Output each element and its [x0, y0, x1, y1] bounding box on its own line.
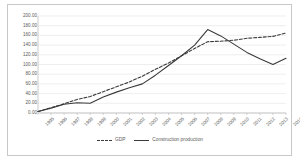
legend-swatch-solid-icon — [134, 140, 149, 141]
legend-item-gdp: GDP — [97, 138, 125, 143]
x-axis-tick-label: 2002 — [136, 117, 146, 127]
x-axis-labels: 1995199619971998199920002001200220032004… — [0, 0, 300, 161]
x-axis-tick-label: 2011 — [253, 117, 263, 127]
chart-legend: GDP Construction production — [0, 138, 300, 143]
x-axis-tick-label: 2014 — [292, 117, 300, 127]
x-axis-tick-label: 2010 — [240, 117, 250, 127]
legend-item-construction-production: Construction production — [134, 138, 203, 143]
x-axis-tick-label: 2012 — [266, 117, 276, 127]
legend-label-construction-production: Construction production — [152, 138, 203, 143]
x-axis-tick-label: 2001 — [123, 117, 133, 127]
x-axis-tick-label: 2008 — [214, 117, 224, 127]
x-axis-tick-label: 2000 — [110, 117, 120, 127]
x-axis-tick-label: 2004 — [162, 117, 172, 127]
x-axis-tick-label: 2013 — [279, 117, 289, 127]
x-axis-tick-label: 2006 — [188, 117, 198, 127]
x-axis-tick-label: 1997 — [71, 117, 81, 127]
x-axis-tick-label: 2009 — [227, 117, 237, 127]
x-axis-tick-label: 1999 — [97, 117, 107, 127]
legend-swatch-dashed-icon — [97, 140, 112, 141]
x-axis-tick-label: 2007 — [201, 117, 211, 127]
x-axis-tick-label: 2003 — [149, 117, 159, 127]
x-axis-tick-label: 2005 — [175, 117, 185, 127]
x-axis-tick-label: 1996 — [58, 117, 68, 127]
chart-figure: 0.0020.0040.0060.0080.00100.00120.00140.… — [0, 0, 300, 161]
legend-label-gdp: GDP — [115, 138, 125, 143]
x-axis-tick-label: 1998 — [84, 117, 94, 127]
x-axis-tick-label: 1995 — [44, 117, 54, 127]
